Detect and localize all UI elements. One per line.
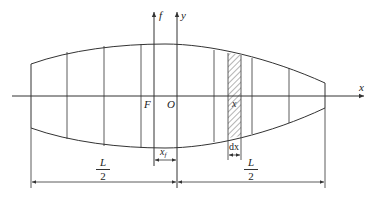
right-half-length-label: L 2 <box>244 157 258 182</box>
fraction-denominator: 2 <box>244 170 258 182</box>
dx-text: dx <box>229 141 239 152</box>
y-axis-label: y <box>181 10 186 21</box>
fraction-denominator: 2 <box>96 170 110 182</box>
origin-label: O <box>167 99 175 110</box>
diagram-graphics <box>0 0 375 204</box>
strip-position-label: x <box>232 99 236 109</box>
xf-label: xf <box>160 147 166 159</box>
focus-point-label: F <box>144 99 151 110</box>
fraction-numerator: L <box>244 157 258 170</box>
station-lines <box>67 44 289 160</box>
fraction-numerator: L <box>96 157 110 170</box>
ship-hull-diagram: f y x F O x dx xf L 2 L 2 <box>0 0 375 204</box>
f-axis-label: f <box>159 10 162 21</box>
x-axis-label: x <box>359 82 364 93</box>
strip-width-label: dx <box>229 142 239 152</box>
xf-subscript: f <box>164 151 166 159</box>
left-half-length-label: L 2 <box>96 157 110 182</box>
